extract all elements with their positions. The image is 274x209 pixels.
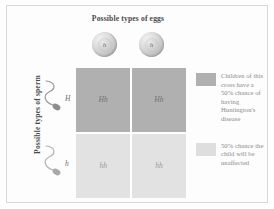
legend-item-unaffected: 50% chance the child will be unaffected: [196, 142, 266, 168]
legend-swatch-affected: [196, 73, 216, 86]
sperm-gamete-2-label: h: [65, 159, 69, 168]
punnett-cell-2: Hh: [132, 68, 186, 132]
legend-swatch-unaffected: [196, 143, 216, 156]
legend-item-affected: Children of this cross have a 50% chance…: [196, 72, 266, 124]
sperm-gamete-1-label: H: [65, 94, 70, 103]
punnett-cell-1-genotype: Hh: [99, 96, 108, 104]
sperm-icon-2: [42, 143, 80, 183]
egg-gamete-2: h: [139, 32, 164, 57]
legend-text-affected: Children of this cross have a 50% chance…: [221, 72, 266, 124]
punnett-cell-3: hh: [76, 134, 130, 198]
egg-gamete-2-label: h: [150, 41, 154, 48]
legend: Children of this cross have a 50% chance…: [196, 72, 266, 185]
legend-text-unaffected: 50% chance the child will be unaffected: [221, 142, 266, 168]
egg-gamete-1-label: h: [103, 41, 107, 48]
punnett-cell-4: hh: [132, 134, 186, 198]
punnett-cell-3-genotype: hh: [99, 162, 107, 170]
egg-nucleus-1: h: [97, 37, 112, 52]
sperm-axis-title: Possible types of sperm: [33, 60, 42, 170]
egg-gamete-1: h: [92, 32, 117, 57]
punnett-cell-1: Hh: [76, 68, 130, 132]
eggs-axis-title: Possible types of eggs: [58, 14, 198, 23]
punnett-cell-4-genotype: hh: [155, 162, 163, 170]
punnett-square-figure: Possible types of eggs h h Possible type…: [0, 0, 274, 209]
sperm-icon-1: [42, 78, 80, 118]
punnett-grid: Hh Hh hh hh: [76, 68, 186, 198]
sperm-gamete-2: h: [42, 143, 80, 183]
egg-nucleus-2: h: [144, 37, 159, 52]
punnett-cell-2-genotype: Hh: [154, 96, 163, 104]
sperm-gamete-1: H: [42, 78, 80, 118]
